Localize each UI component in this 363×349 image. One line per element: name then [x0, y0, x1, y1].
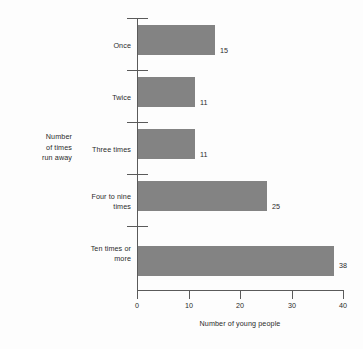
bar-twice — [138, 77, 195, 107]
y-axis-title-line-3: run away — [6, 153, 72, 164]
y-tick-mark — [127, 18, 148, 19]
x-tick-label-30: 30 — [280, 301, 304, 310]
category-label-line: Ten times or — [35, 244, 131, 254]
x-tick-mark — [240, 290, 241, 299]
bar-four-to-nine-times — [138, 181, 267, 211]
y-tick-mark — [127, 122, 148, 123]
x-tick-mark — [292, 290, 293, 299]
x-tick-mark — [137, 290, 138, 299]
y-axis-title-line-1: Number — [6, 132, 72, 143]
category-label-line: Twice — [35, 93, 131, 103]
x-axis-title: Number of young people — [137, 319, 343, 328]
y-tick-mark — [127, 226, 148, 227]
x-tick-mark — [343, 290, 344, 299]
y-tick-mark — [127, 174, 148, 175]
category-label-twice: Twice — [35, 93, 131, 103]
y-tick-mark — [127, 70, 148, 71]
x-tick-label-10: 10 — [177, 301, 201, 310]
x-tick-label-0: 0 — [125, 301, 149, 310]
bar-value-ten-times-or-more: 38 — [339, 261, 347, 270]
category-label-ten-times-or-more: Ten times or more — [35, 244, 131, 263]
category-label-three-times: Three times — [35, 145, 131, 155]
bar-three-times — [138, 129, 195, 159]
x-tick-label-40: 40 — [331, 301, 355, 310]
x-tick-mark — [189, 290, 190, 299]
category-label-line: more — [35, 254, 131, 264]
category-label-line: Four to nine — [35, 192, 131, 202]
bar-value-four-to-nine-times: 25 — [272, 202, 280, 211]
bar-value-twice: 11 — [200, 98, 208, 107]
bar-chart: Number of times run away Once Twice Thre… — [0, 0, 363, 349]
bar-value-three-times: 11 — [200, 150, 208, 159]
bar-value-once: 15 — [220, 46, 228, 55]
bar-ten-times-or-more — [138, 246, 334, 276]
category-label-line: Once — [35, 41, 131, 51]
category-label-line: times — [35, 202, 131, 212]
category-label-four-to-nine-times: Four to nine times — [35, 192, 131, 211]
bar-once — [138, 25, 215, 55]
category-label-line: Three times — [35, 145, 131, 155]
x-tick-label-20: 20 — [228, 301, 252, 310]
category-label-once: Once — [35, 41, 131, 51]
